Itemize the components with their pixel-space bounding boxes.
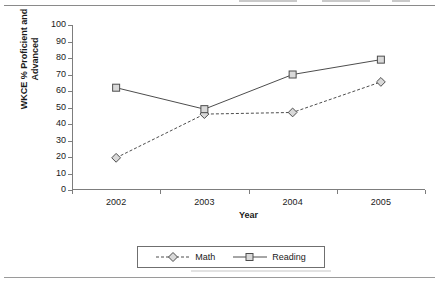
scan-artifact xyxy=(322,0,370,2)
legend-marker-diamond-icon xyxy=(156,251,190,263)
y-axis-tick-label: 70 xyxy=(56,69,66,79)
y-axis-tick-label: 100 xyxy=(51,19,66,29)
y-axis-tick-label: 90 xyxy=(56,36,66,46)
scan-artifact xyxy=(392,0,410,2)
data-point-diamond-marker xyxy=(112,153,121,162)
series-line xyxy=(116,82,381,158)
data-point-square-marker xyxy=(201,106,208,113)
series-math xyxy=(112,78,386,163)
y-axis-tick-label: 10 xyxy=(56,168,66,178)
y-axis-tick-label: 60 xyxy=(56,85,66,95)
x-axis-tick-mark xyxy=(72,190,73,194)
x-axis-title: Year xyxy=(72,210,425,220)
line-chart-figure: WKCE % Proficient and Advanced 100908070… xyxy=(0,6,437,274)
x-axis-tick-label: 2003 xyxy=(194,197,214,207)
x-axis-tick-label: 2004 xyxy=(283,197,303,207)
legend-item-reading[interactable]: Reading xyxy=(233,251,306,263)
data-point-diamond-marker xyxy=(376,78,385,87)
scan-artifact xyxy=(239,0,297,2)
y-axis-tick-label: 0 xyxy=(61,184,66,194)
data-point-square-marker xyxy=(377,56,384,63)
series-layer xyxy=(72,25,425,190)
series-reading xyxy=(113,56,385,113)
y-axis-title-line-2: Advanced xyxy=(30,0,41,139)
x-axis-tick-label: 2002 xyxy=(106,197,126,207)
x-axis-tick-mark xyxy=(160,190,161,194)
chart-page: WKCE % Proficient and Advanced 100908070… xyxy=(0,0,437,286)
x-axis-tick-label: 2005 xyxy=(371,197,391,207)
y-axis-tick-label: 80 xyxy=(56,52,66,62)
data-point-square-marker xyxy=(113,84,120,91)
y-axis-title-line-1: WKCE % Proficient and xyxy=(19,0,30,139)
legend-item-math[interactable]: Math xyxy=(156,251,215,263)
y-axis-tick-label: 40 xyxy=(56,118,66,128)
plot-area: 1009080706050403020100 2002200320042005 xyxy=(72,25,425,190)
y-axis-tick-label: 30 xyxy=(56,135,66,145)
x-axis-tick-mark xyxy=(337,190,338,194)
legend-marker-square-icon xyxy=(233,251,267,263)
data-point-square-marker xyxy=(289,71,296,78)
legend-label-reading: Reading xyxy=(272,252,306,262)
series-line xyxy=(116,60,381,110)
chart-legend: Math Reading xyxy=(137,246,325,268)
x-axis-tick-mark xyxy=(425,190,426,194)
y-axis-title: WKCE % Proficient and Advanced xyxy=(19,0,41,139)
y-axis-tick-label: 50 xyxy=(56,102,66,112)
bottom-divider-rule xyxy=(4,277,435,278)
data-point-diamond-marker xyxy=(288,108,297,117)
y-axis-tick-label: 20 xyxy=(56,151,66,161)
legend-label-math: Math xyxy=(195,252,215,262)
x-axis-tick-mark xyxy=(249,190,250,194)
